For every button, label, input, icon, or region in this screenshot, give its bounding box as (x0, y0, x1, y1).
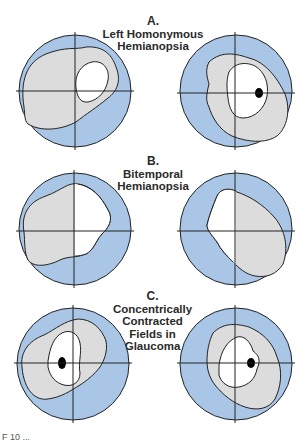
panel-a-letter: A. (98, 15, 208, 28)
panel-a-left-field (16, 32, 134, 150)
panel-c-left-field (14, 305, 132, 423)
panel-b-letter: B. (108, 155, 198, 168)
panel-c-letter: C. (100, 290, 205, 303)
panel-a-right-field (177, 32, 295, 150)
panel-b-left-field (16, 170, 134, 288)
panel-c-right-field (177, 305, 295, 423)
figure-caption: F 10 ... (2, 432, 30, 440)
panel-b-right-field (177, 170, 295, 288)
